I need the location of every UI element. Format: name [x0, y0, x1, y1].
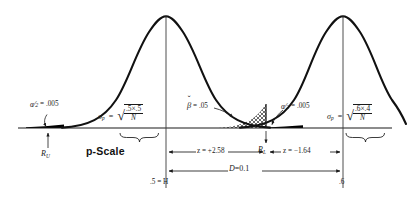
sigma-right-radical: √ .6×.4 N — [346, 104, 372, 122]
distance-label: DD = 0.1=0.1 — [229, 165, 249, 173]
alpha-left-leader — [45, 115, 47, 127]
r-lower-label: RL — [258, 146, 266, 155]
sigma-right-brace — [346, 133, 385, 142]
sigma-right-formula: σp = √ .6×.4 N — [327, 104, 372, 122]
z-right-label: z = −1.64 — [283, 148, 310, 155]
z-left-label: z = +2.58 — [197, 148, 224, 155]
alpha-left-fraction: α⁄2 — [30, 100, 38, 109]
sigma-left-radical: √ .5×.5 N — [117, 104, 143, 122]
alpha-right-fraction: α⁄2 — [281, 102, 289, 111]
alpha-right-label: α⁄2 = .005 — [281, 102, 310, 111]
alpha-left-label: α⁄2 = .005 — [30, 100, 59, 109]
sigma-left-brace — [120, 133, 159, 142]
tick-label-center: .5 = H — [150, 179, 168, 186]
tick-label-right: .6 — [339, 179, 344, 186]
beta-symbol: ˇ β — [187, 101, 191, 110]
beta-label: ˇ β = .05 — [187, 101, 208, 110]
sigma-left-formula: σp = √ .5×.5 N — [98, 104, 143, 122]
p-scale-label: p-Scale — [86, 146, 125, 157]
statistics-power-curve-figure: α⁄2 = .005 RU p-Scale σp = √ .5×.5 N ˇ β… — [0, 0, 409, 201]
r-upper-label: RU — [41, 150, 50, 159]
